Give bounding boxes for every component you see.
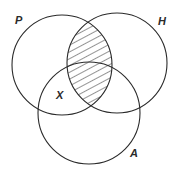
label-a: A: [130, 148, 138, 159]
venn-svg: [0, 0, 181, 169]
label-h: H: [158, 16, 166, 27]
label-x: X: [56, 90, 63, 101]
label-p: P: [15, 15, 22, 26]
venn-diagram: P H A X: [0, 0, 181, 169]
